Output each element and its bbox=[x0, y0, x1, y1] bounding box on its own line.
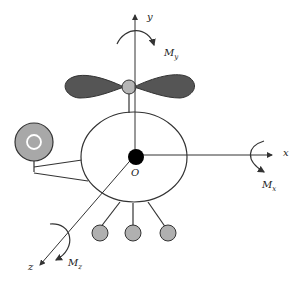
propeller bbox=[65, 75, 194, 98]
origin-label: O bbox=[131, 168, 139, 178]
rotor-hub bbox=[122, 80, 136, 94]
side-sensor bbox=[15, 123, 88, 181]
moment-z-subscript: z bbox=[78, 263, 82, 271]
moment-x-subscript: x bbox=[272, 185, 276, 193]
origin-point bbox=[128, 149, 144, 165]
z-axis-label: z bbox=[28, 262, 33, 272]
moment-y-symbol: M bbox=[164, 47, 174, 58]
legs bbox=[92, 202, 176, 241]
moment-x-label: Mx bbox=[262, 180, 276, 193]
y-axis-label: y bbox=[147, 12, 153, 22]
moment-y-subscript: y bbox=[174, 53, 178, 61]
moment-y-label: My bbox=[164, 48, 178, 61]
moment-z-label: Mz bbox=[68, 258, 82, 271]
moment-x-arrow bbox=[250, 141, 264, 172]
moment-z-symbol: M bbox=[68, 257, 78, 268]
x-axis-label: x bbox=[283, 148, 289, 158]
moment-x-symbol: M bbox=[262, 179, 272, 190]
diagram-canvas bbox=[0, 0, 301, 281]
